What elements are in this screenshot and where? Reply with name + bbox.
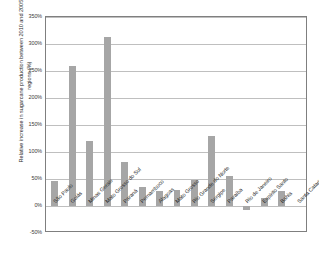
chart-container: Relative increase in sugarcane productio… [0, 0, 319, 264]
x-axis-labels: São PauloGoiásMinas GeraisMato Grosso do… [45, 194, 307, 264]
y-axis-title-holder: Relative increase in sugarcane productio… [2, 16, 24, 232]
y-axis-title: Relative increase in sugarcane productio… [18, 0, 33, 164]
